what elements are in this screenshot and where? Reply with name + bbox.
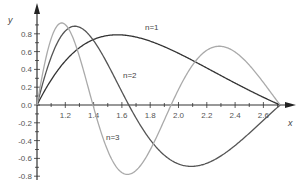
y-tick-label: -0.4	[18, 137, 32, 146]
label-n2: n=2	[123, 71, 137, 80]
x-tick-label: 1.6	[116, 111, 128, 120]
y-tick-label: -0.2	[18, 119, 32, 128]
axes	[34, 3, 296, 180]
x-tick-label: 1.4	[88, 111, 100, 120]
y-tick-label: 0.0	[21, 101, 33, 110]
x-tick-label: 1.2	[60, 111, 72, 120]
y-tick-label: 0.4	[21, 65, 33, 74]
x-axis-label: x	[287, 118, 293, 128]
y-tick-label: -0.8	[18, 172, 32, 181]
ticks: 0.80.60.40.20.0-0.2-0.4-0.6-0.81.21.41.6…	[18, 25, 277, 181]
y-axis-arrow-icon	[34, 3, 40, 14]
y-axis-label: y	[7, 15, 13, 25]
x-axis-arrow-icon	[285, 102, 296, 108]
x-tick-label: 1.8	[145, 111, 157, 120]
curve-n3	[37, 23, 280, 174]
y-tick-label: 0.8	[21, 30, 33, 39]
label-n3: n=3	[106, 133, 120, 142]
curve-n1	[37, 35, 280, 105]
x-tick-label: 2.2	[201, 111, 213, 120]
y-tick-label: 0.6	[21, 48, 33, 57]
chart: 0.80.60.40.20.0-0.2-0.4-0.6-0.81.21.41.6…	[0, 0, 305, 191]
y-tick-label: -0.6	[18, 154, 32, 163]
y-tick-label: 0.2	[21, 83, 33, 92]
x-tick-label: 2.0	[173, 111, 185, 120]
curve-n2	[37, 26, 280, 166]
curves	[37, 23, 280, 174]
label-n1: n=1	[145, 23, 159, 32]
x-tick-label: 2.4	[230, 111, 242, 120]
